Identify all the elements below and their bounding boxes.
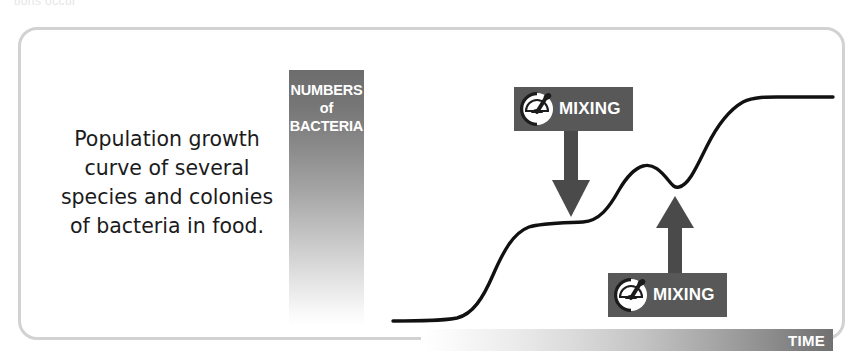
clipped-page-text: tions occur <box>14 0 76 8</box>
figure-page: tions occur Population growth curve of s… <box>0 0 861 363</box>
x-axis-gradient-bar: TIME <box>421 329 833 351</box>
mixing-callout-bottom[interactable]: MIXING <box>608 273 727 317</box>
figure-caption: Population growth curve of several speci… <box>59 125 275 241</box>
x-axis-label: TIME <box>788 332 825 349</box>
mixing-label-bottom: MIXING <box>653 285 715 305</box>
y-axis-gradient-bar: NUMBERS of BACTERIA <box>289 70 364 325</box>
mixing-bowl-icon <box>614 278 648 312</box>
y-axis-label: NUMBERS of BACTERIA <box>289 81 364 135</box>
arrow-up-icon <box>656 196 694 274</box>
y-axis-label-line3: BACTERIA <box>289 117 364 135</box>
mixing-callout-top[interactable]: MIXING <box>514 87 633 131</box>
arrow-down-icon <box>552 130 590 217</box>
y-axis-label-line1: NUMBERS <box>289 81 364 99</box>
mixing-label-top: MIXING <box>559 99 621 119</box>
figure-frame: Population growth curve of several speci… <box>18 27 845 340</box>
mixing-bowl-icon <box>520 92 554 126</box>
y-axis-label-line2: of <box>289 99 364 117</box>
